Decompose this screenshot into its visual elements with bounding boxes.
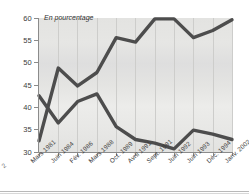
cropped-label-fragment: 2 [0,162,7,170]
y-label-1: 55 [0,36,32,45]
y-tick-2 [34,62,39,63]
chart-figure: 60 55 50 45 40 35 30 Mars 1981 Juin 1984… [0,0,249,194]
series-line-rising [39,19,232,141]
y-tick-0 [34,18,39,19]
y-label-0: 60 [0,14,32,23]
chart-annotation: En pourcentage [44,14,93,21]
y-label-2: 50 [0,58,32,67]
y-label-5: 35 [0,125,32,134]
y-label-4: 40 [0,103,32,112]
page-divider-rule [0,191,249,192]
y-tick-3 [34,85,39,86]
page-divider-rule-secondary [0,193,249,194]
y-label-3: 45 [0,81,32,90]
gridline-10 [232,18,233,152]
data-lines [39,18,232,152]
plot-area [39,18,232,152]
y-tick-5 [34,129,39,130]
y-label-6: 30 [0,148,32,157]
y-tick-1 [34,40,39,41]
y-tick-4 [34,107,39,108]
